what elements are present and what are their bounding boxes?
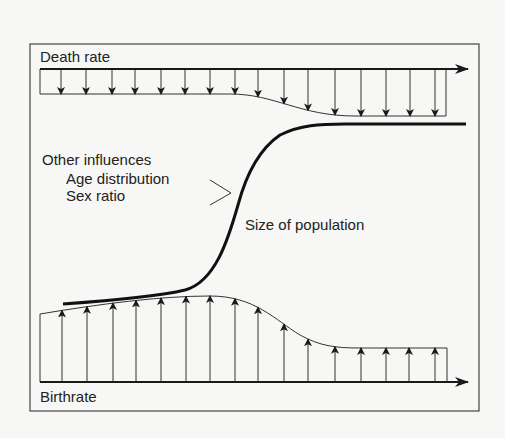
influence-bracket (210, 180, 231, 205)
population-size-label: Size of population (245, 217, 364, 232)
sex-ratio-label: Sex ratio (66, 188, 125, 203)
death-rate-region (40, 69, 468, 116)
death-rate-label: Death rate (40, 49, 110, 64)
birthrate-arrows (62, 296, 435, 381)
birthrate-label: Birthrate (40, 389, 97, 404)
age-distribution-label: Age distribution (66, 171, 169, 186)
death-rate-envelope (40, 69, 446, 116)
birthrate-region (40, 296, 468, 382)
other-influences-label: Other influences (42, 152, 151, 167)
death-rate-arrows (61, 70, 435, 116)
